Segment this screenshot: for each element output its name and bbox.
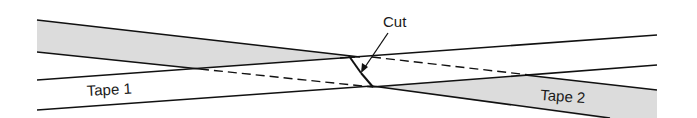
cut-arrow-shaft [363,33,388,70]
tape2-label: Tape 2 [540,86,586,106]
cut-line-lower [361,73,373,87]
dashed-line-right [372,57,530,75]
splice-diagram: Cut Tape 1 Tape 2 [0,0,697,118]
shaded-tape-right [372,75,657,118]
cut-label: Cut [383,13,407,30]
shaded-tape-left [37,20,355,69]
tape1-label: Tape 1 [86,80,132,99]
dashed-line-left [200,69,372,87]
cut-line [349,56,361,73]
tape-edge-top-right [340,35,657,58]
